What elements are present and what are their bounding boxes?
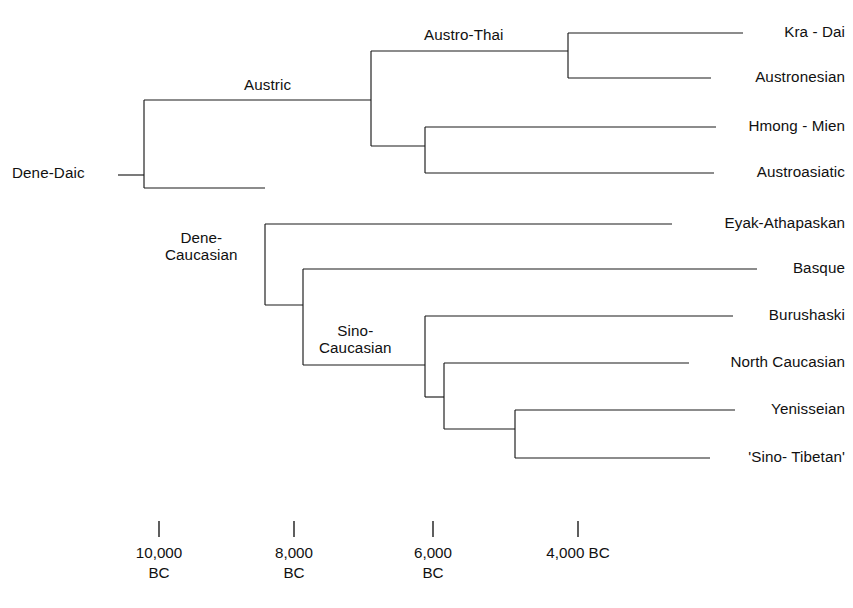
leaf-label-burushaski: Burushaski	[769, 306, 845, 323]
axis-tick-label-1: 8,000BC	[234, 543, 354, 583]
leaf-label-sino-tibetan: 'Sino- Tibetan'	[748, 448, 845, 465]
axis-tick-label-line1: 10,000	[99, 543, 219, 563]
axis-tick-label-line1: 8,000	[234, 543, 354, 563]
axis-tick-label-0: 10,000BC	[99, 543, 219, 583]
node-label-line2: Caucasian	[319, 339, 392, 356]
axis-tick-label-3: 4,000 BC	[518, 543, 638, 563]
phylogenetic-tree-figure: Kra - DaiAustronesianHmong - MienAustroa…	[0, 0, 853, 608]
node-label-austric-label: Austric	[244, 76, 291, 93]
axis-tick-marks	[159, 521, 578, 537]
root-node-label: Dene-Daic	[12, 164, 85, 181]
node-label-line1: Sino-	[319, 322, 392, 339]
leaf-label-austronesian: Austronesian	[755, 68, 845, 85]
leaf-label-hmong-mien: Hmong - Mien	[748, 117, 845, 134]
node-label-line1: Dene-	[165, 229, 238, 246]
node-label-sino-caucasian-label: Sino-Caucasian	[319, 322, 392, 356]
axis-tick-label-line2: BC	[99, 563, 219, 583]
leaf-label-austroasiatic: Austroasiatic	[757, 163, 845, 180]
axis-tick-label-2: 6,000BC	[373, 543, 493, 583]
leaf-label-basque: Basque	[793, 259, 845, 276]
axis-tick-label-line2: BC	[234, 563, 354, 583]
leaf-label-kra-dai: Kra - Dai	[784, 23, 845, 40]
node-label-dene-caucasian-label: Dene-Caucasian	[165, 229, 238, 263]
axis-tick-label-line1: 4,000 BC	[518, 543, 638, 563]
leaf-label-eyak-athapaskan: Eyak-Athapaskan	[724, 214, 845, 231]
tree-lines-svg	[0, 0, 853, 608]
leaf-label-yenisseian: Yenisseian	[771, 400, 845, 417]
axis-tick-label-line1: 6,000	[373, 543, 493, 563]
node-label-line2: Caucasian	[165, 246, 238, 263]
node-label-austro-thai-label: Austro-Thai	[424, 26, 504, 43]
axis-tick-label-line2: BC	[373, 563, 493, 583]
leaf-label-north-caucasian: North Caucasian	[730, 353, 845, 370]
